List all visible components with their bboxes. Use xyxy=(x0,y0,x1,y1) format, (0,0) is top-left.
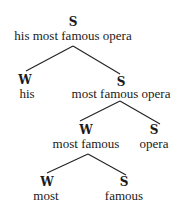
node-label-opera: S xyxy=(150,124,159,136)
node-label-most: W xyxy=(40,176,53,188)
node-text-his: his xyxy=(19,87,34,100)
edge-mf-to-most xyxy=(47,154,88,173)
edge-mfo-to-opera xyxy=(120,101,160,124)
node-label-famous: S xyxy=(120,176,129,188)
node-text-most-famous: most famous xyxy=(53,137,120,150)
edge-root-to-his xyxy=(26,46,73,71)
node-label-most-famous: W xyxy=(79,124,92,136)
node-text-root: his most famous opera xyxy=(14,29,131,42)
node-text-opera: opera xyxy=(140,137,169,150)
metrical-tree-diagram: S his most famous opera W his S most fam… xyxy=(0,0,185,210)
edge-mfo-to-most-famous xyxy=(80,101,120,121)
edge-mf-to-famous xyxy=(88,154,126,175)
node-text-most: most xyxy=(33,189,58,202)
node-label-his: W xyxy=(18,74,31,86)
node-text-famous: famous xyxy=(105,189,143,202)
edge-root-to-most-famous-opera xyxy=(73,46,120,74)
node-label-root: S xyxy=(69,16,78,28)
node-text-most-famous-opera: most famous opera xyxy=(72,87,171,100)
